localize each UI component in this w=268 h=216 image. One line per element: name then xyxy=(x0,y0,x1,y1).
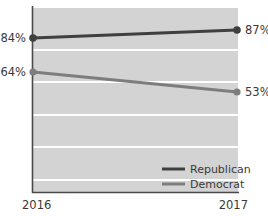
legend-label-republican: Republican xyxy=(190,163,251,176)
republican-label-right: 87% xyxy=(245,23,268,37)
democrat-label-left: 64% xyxy=(0,65,26,79)
democrat-label-right: 53% xyxy=(245,85,268,99)
x-tick-2016: 2016 xyxy=(22,198,51,212)
republican-label-left: 84% xyxy=(0,31,26,45)
republican-point-2017 xyxy=(233,26,241,34)
chart-svg: 84% 64% 87% 53% Republican Democrat 2016… xyxy=(0,0,268,216)
slope-chart: 84% 64% 87% 53% Republican Democrat 2016… xyxy=(0,0,268,216)
legend-label-democrat: Democrat xyxy=(190,178,245,191)
democrat-point-2017 xyxy=(233,88,240,95)
x-tick-2017: 2017 xyxy=(219,198,248,212)
republican-point-2016 xyxy=(29,34,37,42)
democrat-point-2016 xyxy=(29,68,36,75)
